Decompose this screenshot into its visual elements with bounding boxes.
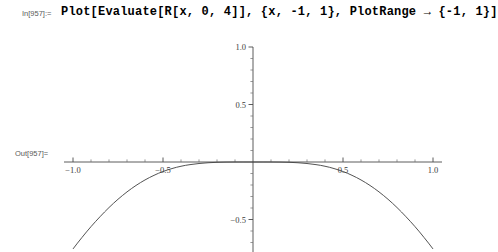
x-tick-label: 0.5	[338, 165, 349, 175]
y-axis	[249, 47, 254, 252]
x-tick-label: −0.5	[155, 165, 170, 175]
x-tick-label: −1.0	[65, 165, 80, 175]
y-tick-label: 1.0	[235, 42, 246, 52]
input-cell-label: In[957]:=	[22, 9, 51, 18]
plot-graphic[interactable]: −1.0−0.50.51.0 −0.50.51.0	[55, 40, 455, 252]
input-cell-code[interactable]: Plot[Evaluate[R[x, 0, 4]], {x, -1, 1}, P…	[61, 5, 498, 19]
y-tick-labels: −0.50.51.0	[231, 42, 246, 225]
y-tick-label: −0.5	[231, 215, 246, 225]
plot-svg: −1.0−0.50.51.0 −0.50.51.0	[55, 40, 455, 252]
x-tick-label: 1.0	[428, 165, 439, 175]
y-tick-label: 0.5	[235, 100, 246, 110]
output-cell-label: Out[957]=	[15, 149, 48, 158]
